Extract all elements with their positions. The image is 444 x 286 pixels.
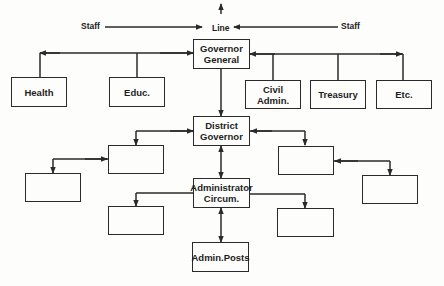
node-administrator-circum: Administrator Circum. (193, 178, 250, 208)
org-chart: Staff Line Staff Governor General Health… (0, 0, 444, 286)
node-district-staff-left-2 (25, 173, 81, 202)
staff-label-left: Staff (81, 21, 100, 31)
line-label: Line (212, 23, 229, 33)
staff-label-right: Staff (341, 21, 360, 31)
node-district-staff-left-1 (108, 145, 164, 174)
node-civil-admin: Civil Admin. (245, 80, 301, 109)
node-circum-staff-right (277, 208, 334, 237)
node-education: Educ. (109, 77, 165, 107)
node-circum-staff-left (108, 206, 164, 235)
node-governor-general: Governor General (193, 39, 250, 69)
node-district-staff-right-1 (278, 146, 334, 175)
node-admin-posts: Admin.Posts (192, 242, 249, 272)
node-etc: Etc. (376, 80, 432, 109)
node-treasury: Treasury (310, 80, 366, 109)
node-district-governor: District Governor (193, 116, 250, 146)
node-district-staff-right-2 (362, 175, 418, 204)
node-health: Health (11, 77, 67, 107)
